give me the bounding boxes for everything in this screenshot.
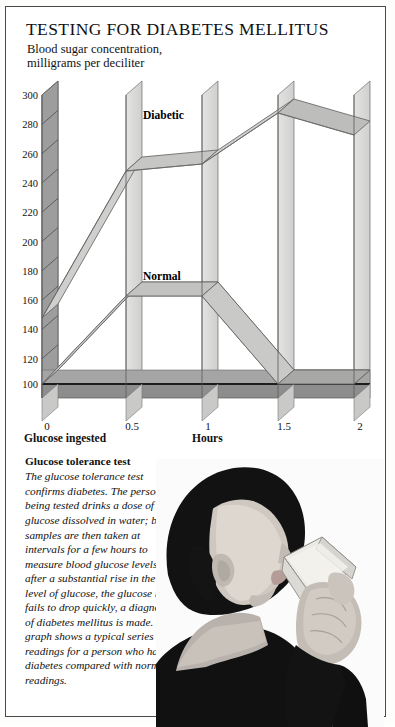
series-label-diabetic: Diabetic: [143, 109, 184, 121]
glucose-tolerance-chart: 300 280 260 240 220 200 180 160 140 120 …: [6, 77, 395, 432]
y-tick-200: 200: [22, 237, 38, 248]
y-tick-100: 100: [22, 379, 38, 390]
y-tick-140: 140: [22, 324, 38, 335]
chart-subtitle-line-2: milligrams per deciliter: [27, 56, 144, 71]
y-tick-180: 180: [22, 266, 38, 277]
y-tick-160: 160: [22, 295, 38, 306]
y-tick-260: 260: [22, 149, 38, 160]
x-tick-2: 2: [357, 420, 363, 432]
x-axis-tick-labels: 0 0.5 1 1.5 2: [44, 420, 363, 432]
x-tick-1: 1: [205, 420, 211, 432]
y-tick-120: 120: [22, 354, 38, 365]
y-tick-300: 300: [22, 90, 38, 101]
photo-svg: [156, 459, 384, 727]
x-tick-0: 0: [44, 420, 50, 432]
page-frame: TESTING FOR DIABETES MELLITUS Blood suga…: [5, 6, 386, 717]
axis-caption-glucose-ingested: Glucose ingested: [24, 432, 106, 444]
caption-body: The glucose tolerance test confirms diab…: [25, 469, 177, 687]
chart-svg: 300 280 260 240 220 200 180 160 140 120 …: [6, 77, 395, 432]
page-title: TESTING FOR DIABETES MELLITUS: [26, 19, 329, 40]
caption-heading: Glucose tolerance test: [25, 454, 177, 468]
x-tick-1.5: 1.5: [277, 420, 291, 432]
axis-caption-hours: Hours: [192, 432, 223, 444]
y-tick-280: 280: [22, 119, 38, 130]
caption-block: Glucose tolerance test The glucose toler…: [25, 454, 177, 687]
y-tick-220: 220: [22, 207, 38, 218]
y-tick-240: 240: [22, 178, 38, 189]
y-axis-tick-labels: 300 280 260 240 220 200 180 160 140 120 …: [22, 90, 38, 390]
person-drinking-photo: [156, 459, 384, 727]
x-tick-0.5: 0.5: [125, 420, 139, 432]
series-label-normal: Normal: [143, 270, 181, 282]
y-axis-slab: [42, 81, 58, 398]
chart-subtitle-line-1: Blood sugar concentration,: [27, 42, 162, 57]
